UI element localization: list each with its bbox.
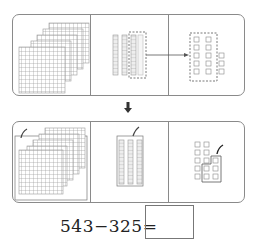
equation-text: 543−325=: [60, 216, 157, 236]
before-regroup-panel: [12, 14, 245, 96]
tens-rods: [113, 32, 146, 78]
hundreds-blocks: [15, 128, 87, 200]
tens-rods: [117, 127, 143, 186]
ones-cubes: [195, 142, 223, 182]
ones-cubes: [190, 33, 224, 81]
blocks-before-illustration: [13, 15, 246, 97]
hundreds-blocks: [19, 23, 89, 93]
after-regroup-panel: [12, 121, 245, 203]
blocks-after-illustration: [13, 122, 246, 204]
answer-input-box[interactable]: [145, 205, 194, 239]
